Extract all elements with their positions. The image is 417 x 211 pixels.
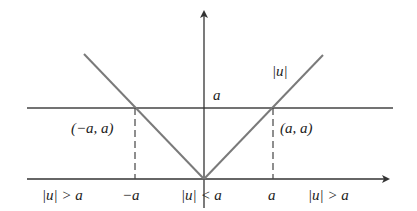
x-label-left-region: |u| > a [42, 187, 83, 203]
x-label-right-region: |u| > a [308, 187, 349, 203]
level-label: a [213, 87, 221, 103]
abs-value-diagram: |u| a (−a, a) (a, a) |u| > a −a |u| < a … [0, 0, 417, 211]
point-label-right-intersection: (a, a) [280, 120, 313, 137]
x-label-center-region: |u| < a [181, 187, 222, 203]
point-label-left-intersection: (−a, a) [71, 120, 114, 137]
abs-curve-left [84, 54, 204, 179]
x-label-pos-a: a [268, 187, 276, 203]
abs-curve-right [204, 55, 323, 179]
x-label-neg-a: −a [122, 187, 140, 203]
curve-label: |u| [272, 63, 288, 79]
